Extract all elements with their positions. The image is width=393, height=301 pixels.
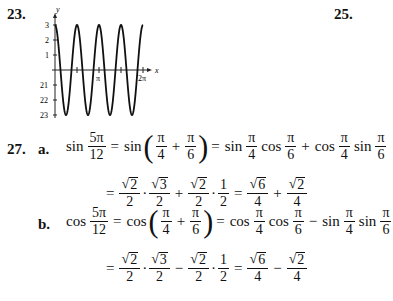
y-tick-1: 1 [45,51,49,60]
y-tick-neg1: 21 [40,81,48,90]
fraction: √22 [188,252,209,284]
fraction: √24 [287,252,308,284]
fraction: 5π12 [90,206,108,237]
left-paren: ( [144,131,154,163]
x-tick-2pi: 2π [138,74,146,83]
x-axis-label: x [154,66,159,75]
right-paren: ) [198,131,208,163]
fraction: 5π12 [88,131,106,162]
part-a-line1: sin 5π12 = sin ( π4 + π6 ) = sin π4 cos … [64,131,388,162]
fraction: π6 [380,206,391,237]
y-axis-label: y [55,5,60,14]
part-b-line2: = √22 · √32 − √22 · 12 = √64 − √24 [103,252,309,284]
fn: sin [66,138,84,155]
fraction: 12 [218,178,229,209]
fraction: 12 [218,253,229,284]
part-a-label: a. [38,141,49,158]
fraction: √64 [247,252,268,284]
y-tick-neg3: 23 [40,111,48,120]
part-b-label: b. [38,216,50,233]
left-paren: ( [149,206,159,238]
fraction: π4 [161,206,172,237]
x-axis-arrow-icon [147,68,152,72]
x-tick-pi: π [96,74,100,83]
fraction: π6 [185,131,196,162]
fraction: π4 [339,131,350,162]
fraction: π4 [156,131,167,162]
fraction: π4 [254,206,265,237]
part-b-line1: cos 5π12 = cos ( π4 + π6 ) = cos π4 cos … [64,206,393,237]
problem-number-25: 25. [334,6,353,23]
fraction: √22 [119,177,140,209]
problem-number-27: 27. [7,141,26,158]
fraction: π4 [246,131,257,162]
cosine-graph: y x 3 2 1 21 22 23 π 2π [0,0,180,125]
fraction: √32 [149,252,170,284]
right-paren: ) [203,206,213,238]
fraction: π6 [293,206,304,237]
fraction: π6 [190,206,201,237]
fraction: √22 [119,252,140,284]
fraction: π6 [285,131,296,162]
y-tick-3: 3 [45,21,49,30]
y-tick-2: 2 [45,36,49,45]
y-tick-neg2: 22 [40,96,48,105]
fraction: π4 [344,206,355,237]
fraction: π6 [375,131,386,162]
